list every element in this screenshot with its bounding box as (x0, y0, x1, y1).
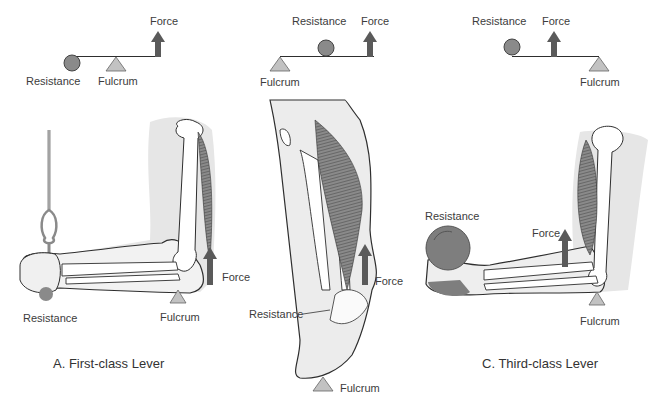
illustration-b-force-label: Force (375, 276, 403, 287)
caption-third-class-lever: C. Third-class Lever (482, 357, 598, 370)
resistance-ball-icon (39, 287, 53, 301)
illustration-a-arm (20, 117, 217, 303)
lever-diagram-artwork (0, 0, 663, 413)
schematic-b-resistance-label: Resistance (292, 16, 346, 27)
illustration-a-force-label: Force (222, 272, 250, 283)
schematic-c-fulcrum-label: Fulcrum (580, 77, 620, 88)
fulcrum-triangle-icon (589, 292, 605, 305)
schematic-a-force-label: Force (150, 16, 178, 27)
schematic-c-resistance-label: Resistance (472, 16, 526, 27)
illustration-a-fulcrum-label: Fulcrum (160, 312, 200, 323)
schematic-b-fulcrum-label: Fulcrum (260, 77, 300, 88)
caption-first-class-lever: A. First-class Lever (53, 357, 164, 370)
illustration-b-resistance-label: Resistance (249, 309, 303, 320)
schematic-a (64, 31, 165, 71)
schematic-c-force-label: Force (542, 16, 570, 27)
dumbbell-icon (426, 226, 470, 270)
schematic-c (504, 31, 609, 71)
resistance-ball-icon (504, 39, 520, 55)
illustration-a-resistance-label: Resistance (23, 313, 77, 324)
illustration-b-leg (270, 100, 376, 391)
fulcrum-triangle-icon (106, 57, 126, 71)
schematic-a-fulcrum-label: Fulcrum (98, 76, 138, 87)
schematic-b-force-label: Force (361, 16, 389, 27)
illustration-c-resistance-label: Resistance (425, 211, 479, 222)
illustration-b-fulcrum-label: Fulcrum (340, 383, 380, 394)
resistance-ball-icon (64, 55, 80, 71)
fulcrum-triangle-icon (589, 57, 609, 71)
schematic-a-resistance-label: Resistance (26, 76, 80, 87)
force-arrow-icon (547, 31, 561, 57)
force-arrow-icon (151, 31, 165, 57)
schematic-b (270, 31, 377, 71)
illustration-c-force-label: Force (532, 228, 560, 239)
illustration-c-fulcrum-label: Fulcrum (580, 316, 620, 327)
fulcrum-triangle-icon (270, 57, 290, 71)
force-arrow-icon (363, 31, 377, 57)
resistance-ball-icon (318, 40, 334, 56)
fulcrum-triangle-icon (313, 377, 333, 391)
